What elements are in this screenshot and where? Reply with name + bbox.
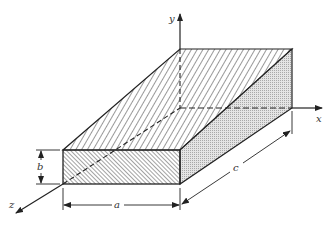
dim-b-label: b xyxy=(37,161,43,172)
box-diagram: y x z b a c xyxy=(0,0,335,226)
x-axis-label: x xyxy=(316,113,322,124)
front-face xyxy=(63,150,180,184)
y-axis-label: y xyxy=(168,13,175,24)
dim-c-label: c xyxy=(233,162,239,173)
z-axis-label: z xyxy=(8,199,15,210)
dim-a-label: a xyxy=(114,199,120,210)
z-axis xyxy=(16,184,63,213)
